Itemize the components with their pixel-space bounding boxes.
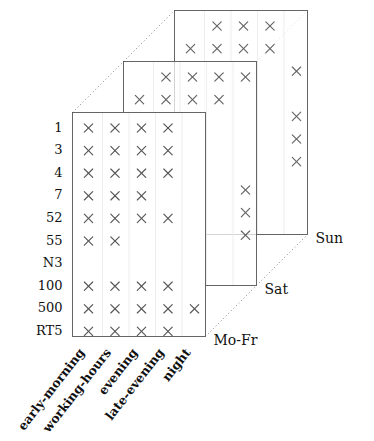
three-d-scatter-plot: 13475255N3100500RT5 early-morningworking… (0, 0, 374, 441)
depth-axis-tick-label: Sun (316, 230, 344, 246)
y-axis-tick-label: 1 (54, 120, 62, 135)
y-axis-tick-label: RT5 (36, 323, 63, 338)
y-axis-tick-label: 3 (54, 142, 62, 157)
y-axis-tick-labels: 13475255N3100500RT5 (36, 120, 63, 338)
y-axis-tick-label: 52 (46, 210, 63, 225)
x-axis-tick-labels: early-morningworking-hourseveninglate-ev… (14, 345, 193, 436)
y-axis-tick-label: 500 (38, 300, 63, 315)
y-axis-tick-label: 7 (54, 187, 62, 202)
y-axis-tick-label: N3 (43, 255, 63, 270)
chart-canvas: 13475255N3100500RT5 early-morningworking… (0, 0, 374, 441)
depth-panel-mo-fr (73, 113, 206, 337)
depth-axis-tick-label: Sat (265, 281, 289, 297)
y-axis-tick-label: 4 (54, 165, 62, 180)
y-axis-tick-label: 100 (38, 278, 63, 293)
y-axis-tick-label: 55 (46, 233, 63, 248)
depth-axis-tick-label: Mo-Fr (214, 332, 258, 348)
x-axis-tick-label: night (159, 345, 194, 384)
